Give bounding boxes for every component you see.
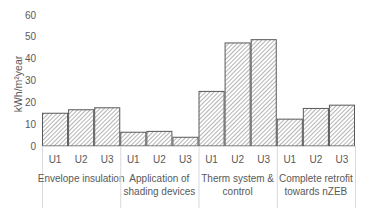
x-tick-label: U2 [75,154,88,165]
y-tick-label: 0 [30,141,36,152]
bar-0-u1 [43,113,68,146]
group-label: Therm system & [201,173,274,184]
y-tick-label: 20 [25,97,37,108]
x-tick-label: U3 [179,154,192,165]
group-label: Envelope insulation [38,173,125,184]
bar-0-u3 [95,108,120,146]
x-tick-label: U1 [283,154,296,165]
x-tick-label: U2 [309,154,322,165]
group-label: shading devices [124,186,196,197]
bar-2-u1 [199,91,224,146]
bar-1-u2 [147,131,172,146]
group-label: towards nZEB [284,186,347,197]
group-label: control [223,186,253,197]
y-tick-label: 50 [25,31,37,42]
bar-2-u3 [251,40,276,146]
bar-1-u1 [121,132,146,146]
x-tick-label: U3 [257,154,270,165]
x-tick-label: U3 [336,154,349,165]
y-tick-label: 40 [25,53,37,64]
x-tick-label: U1 [205,154,218,165]
bar-2-u2 [225,43,250,146]
x-tick-label: U1 [127,154,140,165]
x-tick-label: U2 [153,154,166,165]
x-tick-label: U2 [231,154,244,165]
bar-3-u1 [277,119,302,146]
bar-1-u3 [173,137,198,146]
bar-chart: 0102030405060 kWh/m²year U1U2U3Envelope … [0,0,371,208]
group-label: Complete retrofit [279,173,353,184]
y-tick-label: 30 [25,75,37,86]
bar-3-u2 [303,108,328,146]
group-label: Application of [129,173,189,184]
bar-0-u2 [69,110,94,146]
y-tick-label: 60 [25,10,37,21]
y-axis: 0102030405060 [25,10,37,152]
x-axis: U1U2U3Envelope insulationU1U2U3Applicati… [38,146,356,208]
y-tick-label: 10 [25,119,37,130]
bars [43,40,355,146]
x-tick-label: U3 [101,154,114,165]
y-axis-label: kWh/m²year [12,55,24,112]
x-tick-label: U1 [49,154,62,165]
bar-3-u3 [329,105,354,146]
